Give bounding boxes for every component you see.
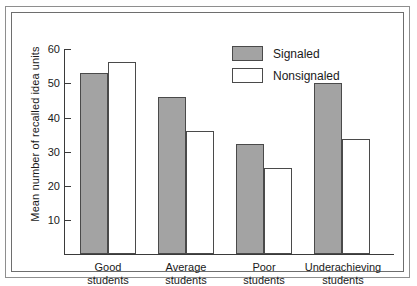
bar-signaled-good-students xyxy=(80,73,108,254)
y-tick-label-20: 20 xyxy=(40,181,60,192)
figure-inner-border: Mean number of recalled idea units 60 50… xyxy=(11,12,404,272)
legend-swatch-nonsignaled xyxy=(232,68,263,83)
y-tick-label-50: 50 xyxy=(40,78,60,89)
x-category-line-2: students xyxy=(298,274,388,286)
x-category-label-average-students: Average students xyxy=(146,261,226,286)
bar-signaled-poor-students xyxy=(236,144,264,254)
chart-legend: Signaled Nonsignaled xyxy=(232,46,340,90)
bar-nonsignaled-poor-students xyxy=(264,168,292,254)
x-category-label-good-students: Good students xyxy=(68,261,148,286)
y-tick-label-30: 30 xyxy=(40,147,60,158)
figure-outer-border: Mean number of recalled idea units 60 50… xyxy=(5,6,410,278)
bar-nonsignaled-underachieving-students xyxy=(342,139,370,254)
bar-nonsignaled-average-students xyxy=(186,131,214,254)
y-tick-label-10: 10 xyxy=(40,215,60,226)
y-tick-10 xyxy=(65,220,71,221)
x-category-line-1: Underachieving xyxy=(298,261,388,274)
x-category-line-2: students xyxy=(146,274,226,286)
legend-swatch-signaled xyxy=(232,46,263,61)
x-category-line-2: students xyxy=(68,274,148,286)
y-tick-30 xyxy=(65,152,71,153)
legend-item-signaled: Signaled xyxy=(232,46,340,61)
y-tick-label-60: 60 xyxy=(40,44,60,55)
y-tick-20 xyxy=(65,186,71,187)
bar-nonsignaled-good-students xyxy=(108,62,136,254)
x-category-label-underachieving-students: Underachieving students xyxy=(298,261,388,286)
bar-signaled-average-students xyxy=(158,97,186,254)
x-category-label-poor-students: Poor students xyxy=(224,261,304,286)
legend-label-signaled: Signaled xyxy=(273,47,320,61)
y-tick-40 xyxy=(65,118,71,119)
x-category-line-1: Good xyxy=(68,261,148,274)
legend-label-nonsignaled: Nonsignaled xyxy=(273,69,340,83)
legend-item-nonsignaled: Nonsignaled xyxy=(232,68,340,83)
x-category-line-1: Average xyxy=(146,261,226,274)
y-tick-60 xyxy=(65,49,71,50)
x-category-line-2: students xyxy=(224,274,304,286)
y-tick-label-40: 40 xyxy=(40,113,60,124)
x-axis-line xyxy=(64,254,394,255)
x-category-line-1: Poor xyxy=(224,261,304,274)
bar-chart: Mean number of recalled idea units 60 50… xyxy=(12,13,407,275)
y-tick-50 xyxy=(65,83,71,84)
y-axis-title: Mean number of recalled idea units xyxy=(29,39,41,229)
bar-signaled-underachieving-students xyxy=(314,83,342,254)
